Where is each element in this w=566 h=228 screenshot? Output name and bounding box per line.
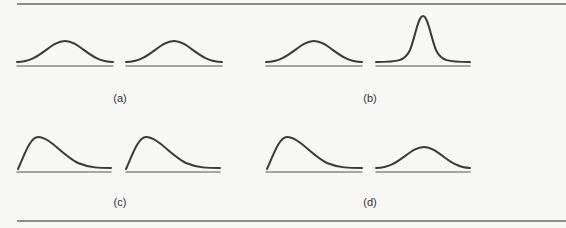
normal-curve [376,147,470,168]
normal-curve [266,41,362,62]
panel-d-label: (d) [363,196,376,208]
panel-c-label: (c) [114,196,127,208]
panel-d [266,137,470,172]
panel-b [266,16,470,66]
panel-a [17,41,222,66]
distribution-figure [0,0,566,228]
skewed-curve [18,137,111,169]
panel-c [17,137,220,172]
skewed-curve [126,137,220,169]
skewed-curve [267,137,362,169]
tall-normal-curve [376,16,470,62]
normal-curve [17,41,113,62]
panel-a-label: (a) [113,92,126,104]
normal-curve [126,41,222,62]
panel-b-label: (b) [363,92,376,104]
